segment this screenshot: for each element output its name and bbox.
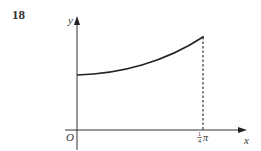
tick-numerator: 1 bbox=[198, 131, 201, 137]
y-axis-label: y bbox=[67, 14, 73, 26]
function-curve bbox=[77, 37, 203, 75]
x-axis-label: x bbox=[243, 134, 249, 146]
y-axis-arrow-icon bbox=[74, 16, 80, 25]
graph: y x O 1 4 π bbox=[0, 0, 261, 151]
tick-pi: π bbox=[203, 132, 209, 143]
tick-denominator: 4 bbox=[198, 138, 201, 144]
tick-label-quarter-pi: 1 4 π bbox=[197, 131, 209, 144]
curve-endpoint bbox=[202, 36, 204, 38]
x-axis-arrow-icon bbox=[238, 127, 247, 133]
origin-label: O bbox=[66, 131, 74, 143]
